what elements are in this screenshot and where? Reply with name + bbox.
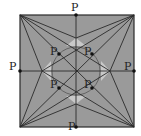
point-label: P — [84, 78, 92, 91]
geometry-diagram: PPPPPPPP — [0, 0, 141, 136]
point-label: P — [9, 60, 17, 73]
point-marker — [57, 86, 61, 90]
point-label: P — [68, 120, 76, 133]
point-label: P — [50, 78, 58, 91]
point-marker — [132, 69, 136, 73]
point-label: P — [84, 45, 92, 58]
point-label: P — [50, 45, 58, 58]
point-label: P — [71, 1, 79, 14]
point-marker — [57, 52, 61, 56]
point-marker — [18, 69, 22, 73]
point-label: P — [124, 60, 132, 73]
